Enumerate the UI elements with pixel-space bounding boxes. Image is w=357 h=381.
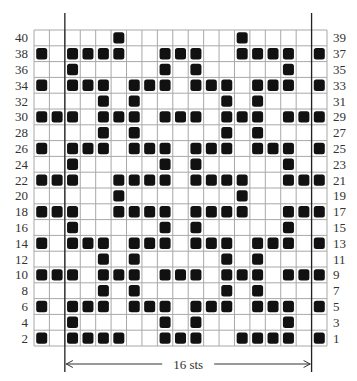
filled-stitch xyxy=(113,332,124,343)
filled-stitch xyxy=(283,174,294,185)
row-label-left: 32 xyxy=(15,94,28,109)
row-label-right: 19 xyxy=(333,188,346,203)
filled-stitch xyxy=(237,190,248,201)
row-label-left: 4 xyxy=(22,315,29,330)
filled-stitch xyxy=(67,159,78,170)
filled-stitch xyxy=(190,332,201,343)
row-label-left: 22 xyxy=(15,173,28,188)
filled-stitch xyxy=(67,332,78,343)
filled-stitch xyxy=(160,222,171,233)
filled-stitch xyxy=(98,80,109,91)
filled-stitch xyxy=(252,285,263,296)
row-label-right: 11 xyxy=(333,252,346,267)
row-label-right: 23 xyxy=(333,157,346,172)
chart-gridlines xyxy=(34,30,327,346)
row-label-left: 16 xyxy=(15,220,29,235)
filled-stitch xyxy=(52,206,63,217)
filled-stitch xyxy=(190,111,201,122)
filled-stitch xyxy=(268,143,279,154)
filled-stitch xyxy=(221,238,232,249)
filled-stitch xyxy=(82,301,93,312)
row-label-left: 10 xyxy=(15,267,28,282)
filled-stitch xyxy=(36,301,47,312)
filled-stitch xyxy=(160,301,171,312)
filled-stitch xyxy=(237,206,248,217)
filled-stitch xyxy=(144,206,155,217)
filled-stitch xyxy=(98,253,109,264)
filled-stitch xyxy=(113,190,124,201)
filled-stitch xyxy=(298,174,309,185)
row-label-right: 33 xyxy=(333,78,346,93)
filled-stitch xyxy=(129,253,140,264)
filled-stitch xyxy=(82,80,93,91)
filled-stitch xyxy=(298,269,309,280)
filled-stitch xyxy=(82,332,93,343)
filled-stitch xyxy=(252,143,263,154)
filled-stitch xyxy=(314,238,325,249)
filled-stitch xyxy=(283,301,294,312)
filled-stitch xyxy=(113,174,124,185)
filled-stitch xyxy=(98,48,109,59)
filled-stitch xyxy=(283,80,294,91)
filled-stitch xyxy=(98,238,109,249)
filled-stitch xyxy=(67,238,78,249)
filled-stitch xyxy=(129,95,140,106)
left-row-labels: 403836343230282624222018161412108642 xyxy=(15,30,29,345)
filled-stitch xyxy=(283,64,294,75)
filled-stitch xyxy=(237,111,248,122)
filled-stitch xyxy=(221,285,232,296)
filled-stitch xyxy=(237,332,248,343)
filled-stitch xyxy=(52,111,63,122)
filled-stitch xyxy=(36,174,47,185)
filled-stitch xyxy=(206,143,217,154)
row-label-right: 7 xyxy=(333,283,340,298)
filled-stitch xyxy=(283,111,294,122)
filled-stitch xyxy=(67,317,78,328)
filled-stitch xyxy=(82,143,93,154)
filled-stitch xyxy=(67,174,78,185)
repeat-width-label: 16 sts xyxy=(173,357,203,372)
filled-stitch xyxy=(129,285,140,296)
filled-stitch xyxy=(268,332,279,343)
filled-stitch xyxy=(190,238,201,249)
row-label-left: 40 xyxy=(15,30,28,45)
filled-stitch xyxy=(221,143,232,154)
row-label-right: 39 xyxy=(333,30,346,45)
filled-stitch xyxy=(175,269,186,280)
row-label-right: 37 xyxy=(333,46,347,61)
filled-stitch xyxy=(237,174,248,185)
filled-stitch xyxy=(252,111,263,122)
row-label-left: 38 xyxy=(15,46,28,61)
filled-stitch xyxy=(283,222,294,233)
filled-stitch xyxy=(144,301,155,312)
filled-stitch xyxy=(98,111,109,122)
filled-stitch xyxy=(252,253,263,264)
filled-stitch xyxy=(67,206,78,217)
filled-stitch xyxy=(190,64,201,75)
filled-stitch xyxy=(252,238,263,249)
filled-stitch xyxy=(221,80,232,91)
filled-stitch xyxy=(221,206,232,217)
filled-stitch xyxy=(252,269,263,280)
filled-stitch xyxy=(237,48,248,59)
filled-stitch xyxy=(283,317,294,328)
row-label-right: 31 xyxy=(333,94,346,109)
row-label-right: 5 xyxy=(333,299,340,314)
row-label-left: 8 xyxy=(22,283,29,298)
row-label-right: 3 xyxy=(333,315,340,330)
row-label-right: 15 xyxy=(333,220,346,235)
filled-stitch xyxy=(160,64,171,75)
filled-stitch xyxy=(206,238,217,249)
row-label-right: 27 xyxy=(333,125,347,140)
row-label-right: 13 xyxy=(333,236,346,251)
filled-stitch xyxy=(129,206,140,217)
filled-stitch xyxy=(113,48,124,59)
row-label-left: 36 xyxy=(15,62,29,77)
filled-stitch xyxy=(283,269,294,280)
filled-stitch xyxy=(82,238,93,249)
filled-stitch xyxy=(175,48,186,59)
filled-stitch xyxy=(36,238,47,249)
filled-stitch xyxy=(268,80,279,91)
row-label-left: 34 xyxy=(15,78,29,93)
row-label-right: 29 xyxy=(333,109,346,124)
